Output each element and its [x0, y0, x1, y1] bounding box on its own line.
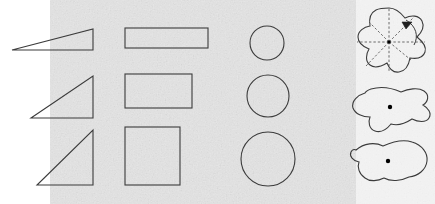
rotation-center-dot — [387, 40, 391, 44]
amoeba-center-dot — [388, 105, 392, 109]
peanut-center-dot — [386, 159, 390, 163]
shapes-figure — [0, 0, 435, 204]
paper-tint-region-2 — [356, 0, 435, 204]
figure-root — [0, 0, 435, 204]
